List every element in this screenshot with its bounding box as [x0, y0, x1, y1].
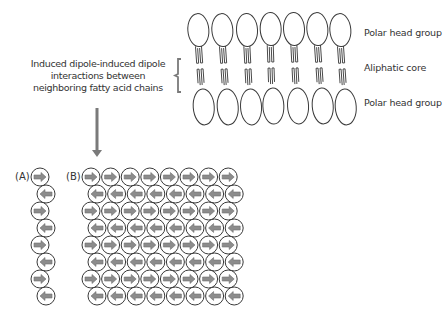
molecule-circle	[166, 219, 184, 237]
lipid-molecule	[211, 13, 240, 126]
molecule-circle	[186, 219, 204, 237]
molecule-circle	[160, 270, 178, 288]
molecule-circle	[166, 287, 184, 305]
molecule-circle	[219, 270, 237, 288]
lipid-molecule	[236, 13, 263, 125]
molecule-circle	[160, 236, 178, 254]
molecule-circle	[147, 219, 165, 237]
molecule-circle	[82, 168, 100, 186]
molecule-circle	[108, 287, 126, 305]
curly-bracket-icon	[175, 59, 181, 92]
molecule-circle	[200, 270, 218, 288]
lipid-molecule	[260, 12, 285, 124]
molecule-circle	[225, 287, 243, 305]
molecule-circle	[200, 236, 218, 254]
molecule-circle	[108, 253, 126, 271]
down-arrow-icon	[92, 108, 102, 157]
lipid-molecule	[283, 12, 310, 124]
molecule-circle	[219, 168, 237, 186]
molecule-circle	[206, 287, 224, 305]
molecule-circle	[108, 219, 126, 237]
molecule-circle	[102, 270, 120, 288]
panel-a-column	[31, 168, 55, 305]
molecule-circle	[82, 270, 100, 288]
diagram-canvas	[0, 0, 443, 329]
molecule-circle	[166, 253, 184, 271]
lipid-molecule	[187, 13, 216, 126]
molecule-circle	[186, 185, 204, 203]
molecule-circle	[180, 270, 198, 288]
molecule-circle	[219, 236, 237, 254]
molecule-circle	[219, 202, 237, 220]
molecule-circle	[225, 219, 243, 237]
molecule-circle	[88, 219, 106, 237]
molecule-circle	[180, 202, 198, 220]
molecule-circle	[141, 202, 159, 220]
molecule-circle	[102, 202, 120, 220]
molecule-circle	[180, 236, 198, 254]
molecule-circle	[225, 185, 243, 203]
molecule-circle	[121, 236, 139, 254]
molecule-circle	[206, 219, 224, 237]
molecule-circle	[88, 185, 106, 203]
molecule-circle	[127, 219, 145, 237]
molecule-circle	[147, 253, 165, 271]
molecule-circle	[141, 168, 159, 186]
molecule-circle	[88, 287, 106, 305]
molecule-circle	[206, 253, 224, 271]
molecule-circle	[147, 287, 165, 305]
molecule-circle	[82, 202, 100, 220]
molecule-circle	[160, 168, 178, 186]
molecule-circle	[127, 287, 145, 305]
molecule-circle	[82, 236, 100, 254]
molecule-circle	[88, 253, 106, 271]
panel-b-grid	[82, 168, 243, 305]
lipid-bilayer	[187, 12, 358, 126]
molecule-circle	[121, 270, 139, 288]
molecule-circle	[108, 185, 126, 203]
molecule-circle	[200, 202, 218, 220]
molecule-circle	[141, 270, 159, 288]
molecule-circle	[166, 185, 184, 203]
molecule-circle	[121, 168, 139, 186]
molecule-circle	[206, 185, 224, 203]
molecule-circle	[141, 236, 159, 254]
molecule-circle	[160, 202, 178, 220]
molecule-circle	[225, 253, 243, 271]
molecule-circle	[102, 236, 120, 254]
molecule-circle	[186, 287, 204, 305]
molecule-circle	[121, 202, 139, 220]
molecule-circle	[127, 185, 145, 203]
molecule-circle	[180, 168, 198, 186]
molecule-circle	[102, 168, 120, 186]
molecule-circle	[200, 168, 218, 186]
molecule-circle	[147, 185, 165, 203]
molecule-circle	[186, 253, 204, 271]
molecule-circle	[127, 253, 145, 271]
